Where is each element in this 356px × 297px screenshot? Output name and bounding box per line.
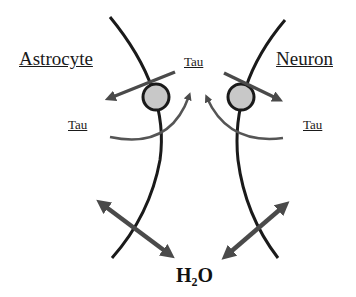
diagram: Astrocyte Neuron Tau Tau Tau H2O — [0, 0, 356, 297]
water-double-arrow-left — [102, 204, 169, 254]
neuron-channel-icon — [228, 84, 254, 110]
tau-label-top: Tau — [184, 54, 203, 70]
tau-label-right: Tau — [303, 117, 322, 133]
diagram-graphics — [0, 0, 356, 297]
water-label: H2O — [176, 264, 213, 290]
water-o: O — [198, 264, 214, 286]
water-h: H — [176, 264, 192, 286]
water-double-arrow-right — [227, 206, 284, 255]
astrocyte-label: Astrocyte — [19, 48, 93, 70]
neuron-label: Neuron — [276, 48, 333, 70]
tau-label-left: Tau — [68, 117, 87, 133]
astrocyte-channel-icon — [143, 84, 169, 110]
